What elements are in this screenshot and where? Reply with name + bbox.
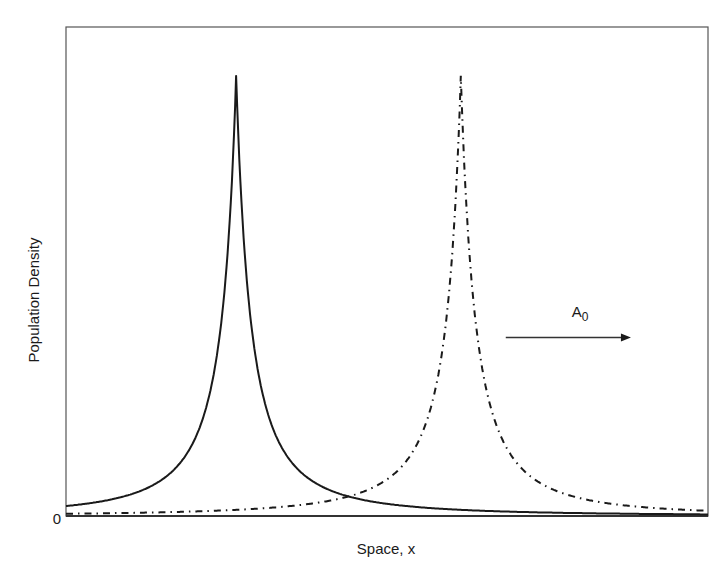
plot-frame — [66, 27, 708, 516]
x-axis-label: Space, x — [357, 540, 415, 557]
chart-canvas — [0, 0, 728, 578]
advection-label: A0 — [572, 303, 589, 324]
advection-label-main: A — [572, 303, 582, 320]
solid-density-curve — [66, 76, 708, 515]
advection-label-subscript: 0 — [582, 310, 589, 324]
arrow-head-icon — [621, 334, 631, 342]
y-tick-zero: 0 — [53, 510, 61, 527]
y-axis-label: Population Density — [25, 237, 42, 362]
dash-dot-density-curve — [66, 76, 708, 514]
